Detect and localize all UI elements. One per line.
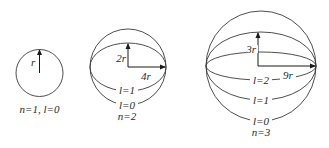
minor-axis-label: 2r (116, 52, 127, 64)
orbit-n1: r n=1, l=0 (16, 50, 63, 116)
radius-label: r (31, 56, 36, 68)
orbit-diagram: r n=1, l=0 2r 4r l=1 l=0 n=2 3r 9r l=2 l… (0, 0, 329, 148)
orbit-n2: 2r 4r l=1 l=0 n=2 (90, 29, 166, 122)
minor-axis-label: 3r (245, 43, 257, 55)
major-axis-label: 4r (141, 70, 152, 82)
major-axis-label: 9r (283, 69, 294, 81)
sub-orbit-label-l2: l=2 (253, 74, 269, 86)
sub-orbit-label-l1: l=1 (253, 94, 269, 106)
orbit-caption-n3: n=3 (252, 126, 271, 138)
sub-orbit-label-l1: l=1 (119, 84, 135, 96)
orbit-caption-n2: n=2 (118, 110, 137, 122)
orbit-n3: 3r 9r l=2 l=1 l=0 n=3 (206, 11, 316, 138)
orbit-caption-n1: n=1, l=0 (20, 103, 60, 115)
